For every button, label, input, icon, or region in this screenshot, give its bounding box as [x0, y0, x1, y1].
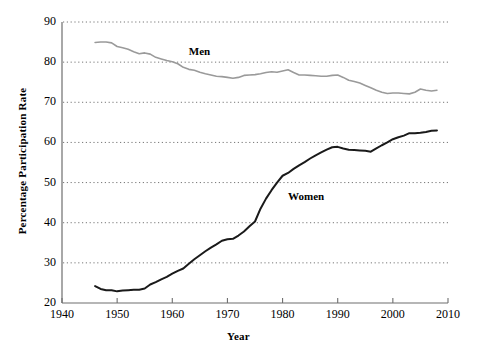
chart-figure: Percentage Participation Rate Year 90807…: [0, 0, 477, 357]
women-series-annotation: Women: [288, 190, 324, 202]
y-tick-label: 30: [30, 255, 56, 270]
x-tick-label: 2000: [370, 307, 416, 322]
gridlines-group: [63, 22, 448, 263]
x-axis-title: Year: [0, 330, 477, 342]
line-chart-canvas: [0, 0, 477, 357]
y-tick-label: 40: [30, 215, 56, 230]
y-tick-label: 80: [30, 54, 56, 69]
x-axis-ticks-group: [62, 298, 448, 303]
y-tick-label: 50: [30, 175, 56, 190]
x-tick-label: 1970: [204, 307, 250, 322]
x-tick-label: 1940: [39, 307, 85, 322]
x-tick-label: 1980: [260, 307, 306, 322]
x-tick-label: 1960: [149, 307, 195, 322]
x-tick-label: 2010: [425, 307, 471, 322]
y-tick-label: 90: [30, 14, 56, 29]
men-series-line: [95, 42, 437, 94]
x-tick-label: 1990: [315, 307, 361, 322]
y-tick-label: 70: [30, 94, 56, 109]
y-tick-label: 60: [30, 134, 56, 149]
y-axis-title: Percentage Participation Rate: [16, 61, 28, 261]
women-series-line: [95, 130, 437, 291]
x-tick-label: 1950: [94, 307, 140, 322]
men-series-annotation: Men: [189, 45, 210, 57]
